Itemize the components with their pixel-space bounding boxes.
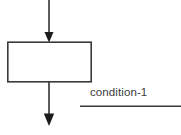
- entry-arrow: [45, 0, 54, 43]
- process-box: [8, 42, 91, 82]
- entry-arrow-head: [45, 32, 54, 43]
- condition-annotation-label: condition-1: [90, 85, 147, 99]
- exit-arrow-head: [44, 114, 54, 127]
- exit-arrow: [44, 82, 54, 126]
- flowchart-diagram: condition-1: [0, 0, 181, 135]
- flowchart-canvas: [0, 0, 181, 135]
